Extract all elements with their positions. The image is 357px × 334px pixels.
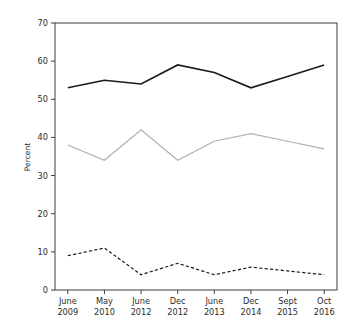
y-axis-title-group: Percent — [23, 143, 32, 172]
series-line-series-solid-dark — [68, 65, 324, 88]
x-tick-label: June2012 — [131, 296, 152, 317]
x-tick-label: May2010 — [94, 296, 115, 317]
x-tick-label: Sept2015 — [277, 296, 298, 317]
series-group — [68, 65, 324, 275]
x-axis-ticks: June2009May2010June2012Dec2012June2013De… — [57, 290, 334, 317]
x-tick-label: Dec2012 — [167, 296, 188, 317]
x-tick-label: Oct2016 — [314, 296, 335, 317]
chart-container: Percent 010203040506070 June2009May2010J… — [0, 0, 357, 334]
series-line-series-solid-light — [68, 130, 324, 161]
y-axis-ticks: 010203040506070 — [38, 18, 55, 295]
y-tick-label: 30 — [38, 171, 48, 181]
y-tick-label: 20 — [38, 209, 48, 219]
y-tick-label: 50 — [38, 94, 48, 104]
x-tick-label: Dec2014 — [241, 296, 262, 317]
y-tick-label: 70 — [38, 18, 48, 28]
x-tick-label: June2009 — [57, 296, 78, 317]
line-chart: Percent 010203040506070 June2009May2010J… — [0, 0, 357, 334]
series-line-series-dashed-dark — [68, 248, 324, 275]
y-tick-label: 10 — [38, 247, 48, 257]
y-tick-label: 40 — [38, 132, 48, 142]
y-tick-label: 0 — [43, 285, 48, 295]
y-tick-label: 60 — [38, 56, 48, 66]
x-tick-label: June2013 — [204, 296, 225, 317]
y-axis-title: Percent — [23, 143, 32, 172]
